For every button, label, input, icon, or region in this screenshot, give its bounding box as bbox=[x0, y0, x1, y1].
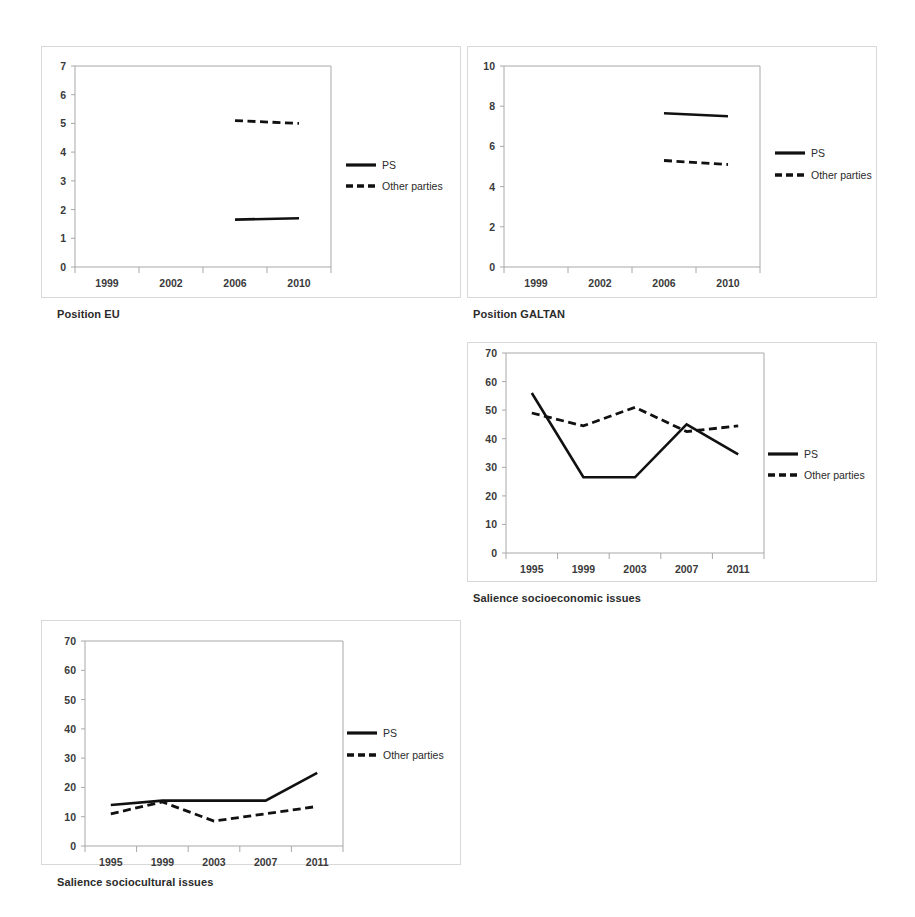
chart-caption-position-galtan: Position GALTAN bbox=[473, 308, 565, 320]
y-tick-label: 50 bbox=[485, 404, 497, 416]
y-tick-label: 0 bbox=[60, 261, 66, 273]
x-tick-label: 2011 bbox=[727, 563, 750, 575]
series-line-other-parties bbox=[235, 121, 299, 124]
x-tick-marks bbox=[75, 267, 331, 273]
y-tick-marks bbox=[71, 66, 75, 267]
y-tick-label: 20 bbox=[485, 490, 497, 502]
x-tick-label: 2011 bbox=[306, 856, 329, 866]
y-tick-label: 0 bbox=[491, 547, 497, 559]
y-tick-marks bbox=[500, 66, 504, 267]
chart-caption-position-eu: Position EU bbox=[57, 308, 120, 320]
legend-label-ps: PS bbox=[811, 147, 825, 159]
y-tick-label: 60 bbox=[485, 376, 497, 388]
chart-legend: PS Other parties bbox=[347, 727, 444, 761]
chart-caption-salience-socioeconomic: Salience socioeconomic issues bbox=[473, 592, 641, 604]
y-tick-label: 10 bbox=[64, 811, 76, 823]
x-tick-label: 2003 bbox=[202, 856, 226, 866]
x-tick-marks bbox=[504, 267, 760, 273]
x-tick-label: 2010 bbox=[287, 277, 311, 289]
legend-label-ps: PS bbox=[383, 727, 397, 739]
x-tick-label: 1995 bbox=[99, 856, 123, 866]
series-line-ps bbox=[664, 113, 728, 116]
y-tick-label: 0 bbox=[70, 840, 76, 852]
x-tick-marks bbox=[85, 846, 343, 852]
series-line-other-parties bbox=[111, 802, 317, 821]
y-tick-label: 40 bbox=[64, 723, 76, 735]
y-tick-marks bbox=[81, 641, 85, 846]
chart-position-galtan-svg: 10 8 6 4 2 0 1999 2002 2006 2010 PS Othe… bbox=[468, 47, 878, 299]
y-tick-label: 2 bbox=[60, 204, 66, 216]
chart-legend: PS Other parties bbox=[775, 147, 872, 181]
y-tick-label: 60 bbox=[64, 664, 76, 676]
x-tick-label: 1995 bbox=[520, 563, 544, 575]
legend-label-other-parties: Other parties bbox=[811, 169, 872, 181]
y-tick-label: 2 bbox=[489, 221, 495, 233]
series-line-ps bbox=[111, 773, 317, 805]
y-tick-label: 5 bbox=[60, 117, 66, 129]
x-tick-label: 2003 bbox=[623, 563, 647, 575]
chart-legend: PS Other parties bbox=[768, 448, 865, 481]
x-tick-label: 2007 bbox=[675, 563, 699, 575]
chart-panel-position-eu: 7 6 5 4 3 2 1 0 1999 2002 2006 2010 PS O… bbox=[41, 46, 461, 298]
y-tick-label: 1 bbox=[60, 232, 66, 244]
chart-salience-sociocultural-svg: 70 60 50 40 30 20 10 0 1995 1999 2003 20… bbox=[42, 621, 462, 866]
chart-panel-salience-socioeconomic: 70 60 50 40 30 20 10 0 1995 1999 2003 20… bbox=[467, 342, 877, 582]
chart-legend: PS Other parties bbox=[346, 159, 443, 192]
legend-label-other-parties: Other parties bbox=[804, 469, 865, 481]
x-tick-marks bbox=[506, 553, 764, 559]
series-line-ps bbox=[235, 218, 299, 219]
chart-salience-socioeconomic-svg: 70 60 50 40 30 20 10 0 1995 1999 2003 20… bbox=[468, 343, 878, 583]
y-tick-label: 8 bbox=[489, 100, 495, 112]
x-tick-label: 1999 bbox=[572, 563, 596, 575]
legend-label-other-parties: Other parties bbox=[382, 180, 443, 192]
series-line-other-parties bbox=[532, 407, 738, 431]
y-tick-label: 30 bbox=[485, 461, 497, 473]
y-tick-label: 70 bbox=[485, 347, 497, 359]
y-tick-label: 40 bbox=[485, 433, 497, 445]
figure-page: { "page": { "title": "Party position and… bbox=[0, 0, 915, 917]
x-tick-label: 2002 bbox=[588, 277, 612, 289]
y-tick-label: 20 bbox=[64, 781, 76, 793]
y-tick-label: 7 bbox=[60, 60, 66, 72]
y-tick-label: 4 bbox=[60, 146, 66, 158]
x-tick-label: 2007 bbox=[254, 856, 278, 866]
series-line-other-parties bbox=[664, 161, 728, 165]
y-tick-label: 3 bbox=[60, 175, 66, 187]
y-tick-marks bbox=[502, 353, 506, 553]
x-tick-label: 2010 bbox=[716, 277, 740, 289]
chart-position-eu-svg: 7 6 5 4 3 2 1 0 1999 2002 2006 2010 PS O… bbox=[42, 47, 462, 299]
legend-label-ps: PS bbox=[382, 159, 396, 171]
x-tick-label: 1999 bbox=[151, 856, 175, 866]
chart-panel-position-galtan: 10 8 6 4 2 0 1999 2002 2006 2010 PS Othe… bbox=[467, 46, 877, 298]
x-tick-label: 2006 bbox=[652, 277, 676, 289]
x-tick-label: 1999 bbox=[524, 277, 548, 289]
y-tick-label: 6 bbox=[489, 140, 495, 152]
series-line-ps bbox=[532, 393, 738, 477]
y-tick-label: 0 bbox=[489, 261, 495, 273]
chart-panel-salience-sociocultural: 70 60 50 40 30 20 10 0 1995 1999 2003 20… bbox=[41, 620, 461, 865]
y-tick-label: 6 bbox=[60, 89, 66, 101]
y-tick-label: 10 bbox=[483, 60, 495, 72]
x-tick-label: 1999 bbox=[95, 277, 119, 289]
legend-label-other-parties: Other parties bbox=[383, 749, 444, 761]
y-tick-label: 70 bbox=[64, 635, 76, 647]
x-tick-label: 2006 bbox=[223, 277, 247, 289]
y-tick-label: 10 bbox=[485, 518, 497, 530]
chart-caption-salience-sociocultural: Salience sociocultural issues bbox=[57, 876, 213, 888]
x-tick-label: 2002 bbox=[159, 277, 183, 289]
y-tick-label: 50 bbox=[64, 694, 76, 706]
y-tick-label: 4 bbox=[489, 181, 495, 193]
y-tick-label: 30 bbox=[64, 752, 76, 764]
legend-label-ps: PS bbox=[804, 448, 818, 460]
